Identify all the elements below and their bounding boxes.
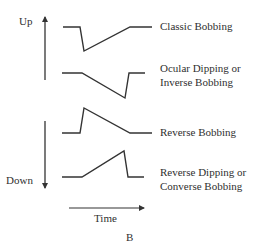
label-reverse-dipping-line1: Reverse Dipping or	[160, 166, 246, 179]
label-classic-bobbing: Classic Bobbing	[160, 20, 232, 33]
label-reverse-dipping-line2: Converse Bobbing	[160, 180, 242, 193]
diagram-canvas	[0, 0, 257, 244]
trace-reverse-dipping	[62, 151, 144, 177]
down-label: Down	[6, 174, 33, 187]
label-ocular-dipping-line2: Inverse Bobbing	[160, 76, 233, 89]
up-label: Up	[19, 15, 32, 28]
label-ocular-dipping-line1: Ocular Dipping or	[160, 62, 241, 75]
panel-label: B	[126, 231, 133, 244]
time-label: Time	[94, 212, 117, 225]
trace-ocular-dipping	[62, 73, 145, 98]
trace-reverse-bobbing	[62, 108, 152, 133]
label-reverse-bobbing: Reverse Bobbing	[160, 126, 236, 139]
trace-classic-bobbing	[63, 27, 152, 51]
